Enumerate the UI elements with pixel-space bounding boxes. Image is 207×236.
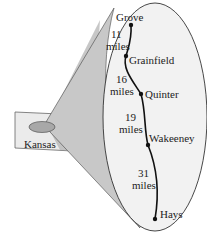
state-label-kansas: Kansas (24, 138, 56, 150)
distance-number-2: 16 (116, 73, 128, 85)
town-label-wakeeney: Wakeeney (149, 132, 195, 144)
distance-number-3: 19 (125, 111, 137, 123)
diagram-canvas: Grove Grainfield Quinter Wakeeney Hays 1… (0, 0, 207, 236)
town-label-grainfield: Grainfield (129, 54, 175, 66)
region-oval (29, 122, 55, 133)
town-label-quinter: Quinter (145, 88, 179, 100)
town-dot-grove (129, 23, 133, 27)
town-label-grove: Grove (116, 11, 144, 23)
distance-unit-4: miles (132, 179, 156, 191)
distance-unit-3: miles (119, 123, 143, 135)
distance-unit-2: miles (110, 85, 134, 97)
town-label-hays: Hays (160, 208, 183, 220)
kansas-route-diagram: Grove Grainfield Quinter Wakeeney Hays 1… (0, 0, 207, 236)
distance-number-4: 31 (138, 167, 149, 179)
distance-unit-1: miles (106, 40, 130, 52)
town-dot-grainfield (124, 54, 128, 58)
distance-number-1: 11 (111, 28, 122, 40)
town-dot-hays (153, 217, 157, 221)
town-dot-quinter (139, 92, 143, 96)
